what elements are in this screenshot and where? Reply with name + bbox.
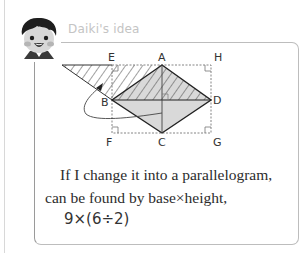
label-D: D <box>213 94 221 107</box>
label-B: B <box>101 96 109 109</box>
label-G: G <box>213 136 222 149</box>
explanation-line-2: can be found by base×height, <box>45 189 227 207</box>
formula: 9×(6÷2) <box>64 210 129 228</box>
label-H: H <box>214 51 222 64</box>
explanation-line-1: If I change it into a parallelogram, <box>60 166 272 184</box>
label-F: F <box>106 136 112 149</box>
label-A: A <box>158 51 166 64</box>
label-C: C <box>158 136 166 149</box>
rhombus-diagram: E A H B D F C G <box>0 0 306 160</box>
label-E: E <box>108 51 115 64</box>
